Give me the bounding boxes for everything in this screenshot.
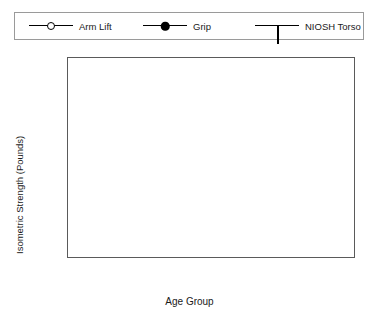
square-marker xyxy=(277,25,279,44)
x-axis-title: Age Group xyxy=(0,296,379,307)
chart-legend: Arm Lift Grip NIOSH Torso xyxy=(14,12,364,40)
series-layer xyxy=(68,58,354,257)
legend-item-arm-lift: Arm Lift xyxy=(29,13,112,39)
y-axis-title: Isometric Strength (Pounds) xyxy=(14,136,25,254)
plot-area xyxy=(67,57,355,258)
legend-label-arm-lift: Arm Lift xyxy=(79,21,112,32)
filled-circle-marker-sample xyxy=(143,19,187,33)
legend-item-niosh-torso: NIOSH Torso xyxy=(255,13,361,39)
legend-label-grip: Grip xyxy=(193,21,211,32)
filled-circle-marker xyxy=(161,22,170,31)
legend-item-grip: Grip xyxy=(143,13,211,39)
open-circle-marker xyxy=(47,22,55,30)
square-marker-sample xyxy=(255,19,299,33)
legend-label-niosh-torso: NIOSH Torso xyxy=(305,21,361,32)
open-circle-marker-sample xyxy=(29,19,73,33)
